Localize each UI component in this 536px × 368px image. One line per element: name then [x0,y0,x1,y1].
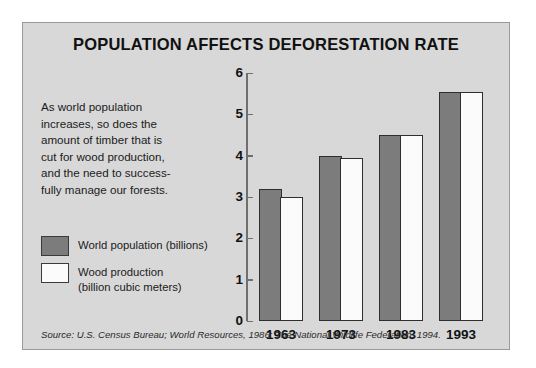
plot-area: 0123456 1963197319831993 [219,63,495,325]
chart-title: POPULATION AFFECTS DEFORESTATION RATE [23,35,509,54]
bar-group [436,73,486,321]
bar-group [376,73,426,321]
legend-label-line: Wood production [78,265,182,280]
bar[interactable] [280,197,303,321]
bar[interactable] [439,92,462,321]
description-text: As world populationincreases, so does th… [41,99,217,199]
description-line: amount of timber that is [41,132,217,149]
y-axis-tick-label: 6 [235,64,243,81]
chart-legend: World population (billions)Wood producti… [41,236,241,301]
y-axis-tick-label: 4 [235,147,243,164]
bar-group [316,73,366,321]
y-axis-tick-label: 5 [235,105,243,122]
description-line: increases, so does the [41,116,217,133]
y-axis-tick-label: 1 [235,271,243,288]
bar-group [256,73,306,321]
bars-area [248,73,495,321]
bar[interactable] [460,92,483,321]
source-note: Source: U.S. Census Bureau; World Resour… [41,329,441,340]
y-axis-tick-label: 2 [235,229,243,246]
bar[interactable] [400,135,423,321]
y-axis-tick-label: 3 [235,188,243,205]
legend-label: World population (billions) [78,236,208,253]
legend-label-line: World population (billions) [78,238,208,253]
description-line: fully manage our forests. [41,182,217,199]
legend-label: Wood production(billion cubic meters) [78,263,182,294]
description-line: and the need to success- [41,165,217,182]
y-axis-tick-label: 0 [235,312,243,329]
legend-label-line: (billion cubic meters) [78,280,182,295]
bar[interactable] [340,158,363,321]
legend-swatch-icon [41,236,69,256]
description-line: cut for wood production, [41,149,217,166]
bar[interactable] [259,189,282,321]
bar[interactable] [319,156,342,321]
description-line: As world population [41,99,217,116]
legend-swatch-icon [41,263,69,283]
chart-figure: POPULATION AFFECTS DEFORESTATION RATE As… [22,22,510,350]
legend-item[interactable]: Wood production(billion cubic meters) [41,263,241,294]
legend-item[interactable]: World population (billions) [41,236,241,256]
bar[interactable] [379,135,402,321]
